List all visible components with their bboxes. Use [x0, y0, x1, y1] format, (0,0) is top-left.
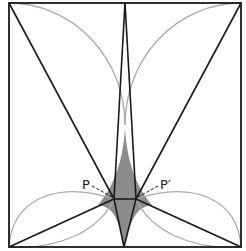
lower-left-arc-upper [9, 192, 114, 247]
line-bottomleft-to-P [9, 199, 114, 247]
line-topright-to-Pprime [136, 3, 241, 199]
shaded-region [98, 128, 152, 247]
diagram-canvas: P P′ [0, 0, 246, 251]
line-topleft-to-P [9, 3, 114, 199]
upper-right-arc [125, 3, 241, 125]
label-P: P [82, 177, 90, 192]
line-bottomright-to-Pprime [136, 199, 241, 247]
lower-right-arc-upper [136, 192, 241, 247]
label-P-prime: P′ [160, 177, 171, 192]
upper-left-arc [9, 3, 125, 125]
